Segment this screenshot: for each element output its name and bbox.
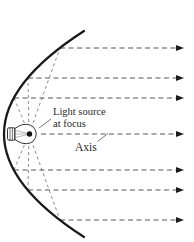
light-source-label-line2: at focus — [53, 118, 86, 129]
axis-label: Axis — [75, 141, 97, 153]
ray-arrowhead — [176, 131, 184, 137]
light-source-leader-line — [39, 119, 51, 128]
reflected-rays-group — [14, 45, 184, 223]
parabolic-reflector-diagram: Light source at focus Axis — [0, 0, 194, 242]
ray-arrowhead — [176, 187, 184, 193]
focus-filament-dot — [27, 131, 32, 136]
axis-leader-line — [98, 134, 109, 142]
light-bulb — [8, 124, 37, 143]
ray-arrowhead — [176, 217, 184, 223]
ray-arrowhead — [176, 167, 184, 173]
light-source-label-line1: Light source — [53, 106, 106, 117]
ray-arrowhead — [176, 45, 184, 51]
ray-arrowhead — [176, 95, 184, 101]
ray-arrowhead — [176, 75, 184, 81]
bulb-base — [8, 128, 16, 140]
diagram-canvas: Light source at focus Axis — [0, 0, 194, 242]
